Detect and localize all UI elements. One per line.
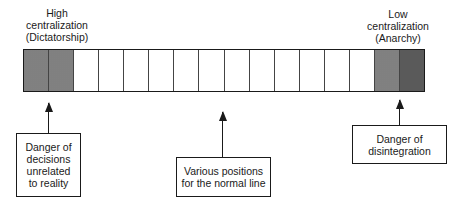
scale-cell — [225, 50, 250, 91]
callout-danger-unrelated-decisions: Danger of decisions unrelated to reality — [16, 133, 81, 197]
scale-cell — [124, 50, 149, 91]
label-line: (Dictatorship) — [12, 31, 102, 43]
scale-cell — [275, 50, 300, 91]
callout-line: Danger of — [376, 133, 422, 145]
callout-line: Various positions — [184, 165, 263, 177]
callout-normal-line-positions: Various positions for the normal line — [176, 157, 271, 197]
arrow-up-icon — [222, 112, 223, 157]
high-centralization-label: High centralization (Dictatorship) — [12, 7, 102, 43]
centralization-scale-bar — [23, 49, 425, 92]
label-line: High — [12, 7, 102, 19]
label-line: centralization — [12, 19, 102, 31]
callout-line: disintegration — [368, 145, 430, 157]
callout-line: decisions — [27, 153, 71, 165]
arrow-up-icon — [48, 103, 49, 133]
low-centralization-label: Low centralization (Anarchy) — [352, 8, 444, 44]
scale-cell-shaded — [400, 50, 424, 91]
scale-cell-shaded — [24, 50, 49, 91]
label-line: Low — [352, 8, 444, 20]
label-line: centralization — [352, 20, 444, 32]
scale-cell — [325, 50, 350, 91]
callout-line: unrelated — [27, 165, 71, 177]
scale-cell — [99, 50, 124, 91]
scale-cell — [250, 50, 275, 91]
callout-danger-disintegration: Danger of disintegration — [352, 125, 447, 164]
callout-line: to reality — [29, 177, 69, 189]
callout-line: for the normal line — [181, 177, 265, 189]
scale-cell — [300, 50, 325, 91]
arrow-up-icon — [399, 100, 400, 125]
scale-cell-shaded — [375, 50, 400, 91]
scale-cell — [350, 50, 375, 91]
scale-cell-shaded — [49, 50, 74, 91]
scale-cell — [199, 50, 224, 91]
label-line: (Anarchy) — [352, 32, 444, 44]
scale-cell — [74, 50, 99, 91]
scale-cell — [149, 50, 174, 91]
callout-line: Danger of — [25, 141, 71, 153]
scale-cell — [174, 50, 199, 91]
